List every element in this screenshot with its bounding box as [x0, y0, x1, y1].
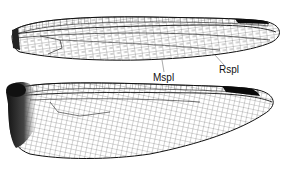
- mspl-leader-line: [162, 60, 164, 72]
- rspl-label: Rspl: [219, 65, 239, 75]
- forewing: [12, 17, 279, 60]
- wing-venation-drawing: [0, 0, 286, 173]
- wing-diagram: Mspl Rspl: [0, 0, 286, 173]
- mspl-label: Mspl: [153, 73, 174, 83]
- hindwing: [6, 82, 273, 158]
